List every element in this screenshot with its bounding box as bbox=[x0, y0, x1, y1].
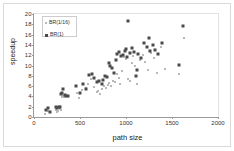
data-point bbox=[111, 66, 114, 69]
data-point bbox=[183, 37, 185, 39]
data-point bbox=[136, 68, 139, 71]
y-tick-label: 0 bbox=[28, 114, 31, 120]
y-tick-label: 6 bbox=[28, 83, 31, 89]
x-tick-mark bbox=[126, 117, 127, 119]
data-point bbox=[130, 46, 133, 49]
y-tick-label: 8 bbox=[28, 73, 31, 79]
data-point bbox=[90, 72, 93, 75]
y-tick-label: 10 bbox=[25, 63, 32, 69]
data-point bbox=[161, 41, 164, 44]
data-point bbox=[59, 105, 62, 108]
y-tick-label: 16 bbox=[25, 32, 32, 38]
data-point bbox=[149, 50, 152, 53]
y-tick-mark bbox=[32, 24, 34, 25]
data-point bbox=[125, 48, 128, 51]
data-point bbox=[140, 57, 143, 60]
data-point bbox=[110, 85, 112, 87]
data-point bbox=[100, 83, 103, 86]
data-point bbox=[81, 83, 84, 86]
data-point bbox=[119, 83, 121, 85]
y-tick-label: 20 bbox=[25, 11, 32, 17]
data-point bbox=[126, 19, 129, 22]
y-tick-mark bbox=[32, 66, 34, 67]
y-tick-mark bbox=[32, 76, 34, 77]
data-point bbox=[84, 87, 87, 90]
x-tick-label: 1500 bbox=[165, 120, 178, 126]
data-point bbox=[134, 65, 136, 67]
y-tick-mark bbox=[32, 14, 34, 15]
y-tick-mark bbox=[32, 107, 34, 108]
data-point bbox=[114, 81, 116, 83]
y-tick-mark bbox=[32, 35, 34, 36]
data-point bbox=[101, 88, 103, 90]
data-point bbox=[182, 24, 185, 27]
data-point bbox=[133, 51, 136, 54]
data-point bbox=[178, 73, 180, 75]
y-tick-label: 2 bbox=[28, 104, 31, 110]
data-point bbox=[160, 46, 162, 48]
y-tick-label: 18 bbox=[25, 21, 32, 27]
data-point bbox=[99, 93, 101, 95]
data-point bbox=[106, 75, 109, 78]
data-point bbox=[147, 69, 149, 71]
y-tick-mark bbox=[32, 55, 34, 56]
y-tick-label: 14 bbox=[25, 42, 32, 48]
x-tick-mark bbox=[34, 117, 35, 119]
data-point bbox=[125, 56, 128, 59]
data-point bbox=[66, 94, 69, 97]
data-point bbox=[118, 77, 120, 79]
data-point bbox=[121, 70, 123, 72]
x-tick-label: 500 bbox=[75, 120, 85, 126]
data-point bbox=[61, 88, 64, 91]
legend-item-series-2: BR(1) bbox=[45, 31, 74, 39]
x-tick-label: 0 bbox=[32, 120, 35, 126]
data-point bbox=[137, 53, 140, 56]
data-point bbox=[105, 87, 107, 89]
data-point bbox=[79, 92, 82, 95]
y-tick-label: 12 bbox=[25, 52, 32, 58]
y-tick-mark bbox=[32, 86, 34, 87]
data-point bbox=[144, 61, 146, 63]
data-point bbox=[177, 63, 180, 66]
data-point bbox=[145, 45, 148, 48]
data-point bbox=[132, 55, 134, 57]
data-point bbox=[47, 107, 50, 110]
legend-marker-icon bbox=[45, 22, 47, 24]
data-point bbox=[156, 53, 159, 56]
legend-item-series-1: BR(1/16) bbox=[45, 19, 74, 27]
data-point bbox=[129, 80, 131, 82]
data-point bbox=[153, 57, 155, 59]
data-point bbox=[129, 52, 132, 55]
data-point bbox=[113, 71, 116, 74]
data-point bbox=[60, 109, 62, 111]
data-point bbox=[121, 54, 124, 57]
data-point bbox=[107, 84, 109, 86]
data-point bbox=[90, 78, 92, 80]
y-tick-label: 4 bbox=[28, 93, 31, 99]
data-point bbox=[75, 85, 78, 88]
data-point bbox=[93, 76, 96, 79]
legend-label: BR(1/16) bbox=[49, 20, 70, 25]
x-tick-label: 2000 bbox=[211, 120, 224, 126]
chart-figure: speedup 02468101214161820050010001500200… bbox=[0, 0, 234, 151]
data-point bbox=[49, 110, 52, 113]
data-point bbox=[136, 83, 138, 85]
data-point bbox=[44, 113, 46, 115]
data-point bbox=[102, 78, 105, 81]
data-point bbox=[93, 86, 95, 88]
x-tick-label: 1000 bbox=[119, 120, 132, 126]
x-tick-mark bbox=[172, 117, 173, 119]
data-point bbox=[151, 43, 154, 46]
data-point bbox=[116, 73, 118, 75]
data-point bbox=[135, 74, 138, 77]
legend-label: BR(1) bbox=[50, 32, 64, 37]
data-point bbox=[87, 83, 89, 85]
data-point bbox=[131, 62, 133, 64]
data-point bbox=[142, 41, 145, 44]
data-point bbox=[147, 36, 150, 39]
y-axis-label: speedup bbox=[9, 22, 16, 82]
data-point bbox=[164, 68, 166, 70]
data-point bbox=[156, 72, 158, 74]
data-point bbox=[78, 97, 80, 99]
data-point bbox=[153, 49, 156, 52]
